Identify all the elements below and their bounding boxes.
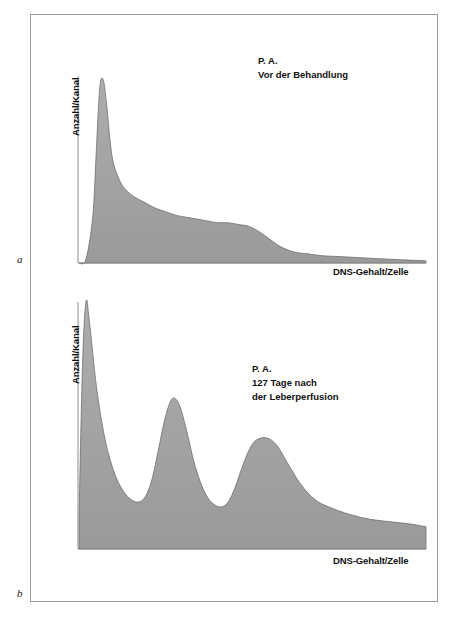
panel-a: Anzahl/Kanal DNS-Gehalt/Zelle P. A. Vor … — [30, 14, 438, 294]
annotation-a: P. A. Vor der Behandlung — [258, 54, 348, 82]
y-axis-label-b: Anzahl/Kanal — [71, 326, 81, 384]
annotation-b-line-1: P. A. — [252, 362, 339, 376]
annotation-a-line-2: Vor der Behandlung — [258, 68, 348, 82]
x-axis-label-a: DNS-Gehalt/Zelle — [333, 267, 408, 277]
panel-letter-b: b — [17, 588, 23, 599]
panel-a-plot — [30, 14, 438, 294]
annotation-b: P. A. 127 Tage nach der Leberperfusion — [252, 362, 339, 404]
histogram-curve-b — [79, 300, 426, 549]
histogram-curve-a — [79, 78, 426, 264]
figure-root: a b Anzahl/Kanal DNS-Gehalt/Zelle P. A. … — [0, 0, 454, 620]
panel-b: Anzahl/Kanal DNS-Gehalt/Zelle P. A. 127 … — [30, 294, 438, 602]
annotation-a-line-1: P. A. — [258, 54, 348, 68]
annotation-b-line-3: der Leberperfusion — [252, 390, 339, 404]
y-axis-label-a: Anzahl/Kanal — [71, 78, 81, 136]
x-axis-label-b: DNS-Gehalt/Zelle — [333, 556, 408, 566]
panel-letter-a: a — [17, 254, 23, 265]
annotation-b-line-2: 127 Tage nach — [252, 376, 339, 390]
